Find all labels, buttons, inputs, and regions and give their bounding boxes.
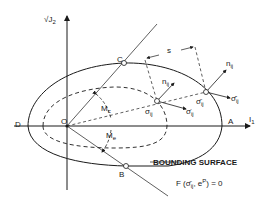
sigma-bar-dot-vector <box>206 92 230 98</box>
compression-line <box>67 24 157 126</box>
point-d-label: D <box>15 120 21 129</box>
sigma-bar-label: σ̄ij <box>196 97 204 107</box>
point-c-label: C <box>117 55 123 64</box>
s-extension-right <box>195 47 206 92</box>
n-outer-vector <box>206 70 226 92</box>
s-extension-left <box>145 60 157 101</box>
s-dimension-right <box>181 47 193 50</box>
horizontal-axis-label: I1 <box>249 115 255 125</box>
bounding-surface-caption: BOUNDING SURFACE <box>153 158 238 167</box>
sigma-inner-marker <box>155 99 160 104</box>
sigma-inner-label: σij <box>145 107 153 117</box>
s-dimension-left <box>147 55 159 58</box>
sigma-dot-vector <box>157 101 186 109</box>
point-a-label: A <box>228 117 234 126</box>
sigma-bar-marker <box>204 90 209 95</box>
n-outer-label: nij <box>226 59 233 69</box>
distance-s-label: s <box>167 46 171 55</box>
sigma-dot-label: σ̇ij <box>186 107 194 117</box>
point-b-label: B <box>119 170 124 179</box>
sigma-bar-dot-label: σ̄̇ij <box>231 94 239 104</box>
angle-me-label: Me <box>106 131 117 141</box>
bounding-surface-equation: F (σ̄ij, eP) = 0 <box>176 178 223 189</box>
bounding-surface-diagram: √J2 I1 D O A C B Mc Me s nij σij σ̇ij ni… <box>0 0 268 207</box>
point-b-marker <box>124 164 129 169</box>
vertical-axis-label: √J2 <box>44 15 56 25</box>
n-inner-label: nij <box>162 77 169 87</box>
origin-label: O <box>61 117 67 126</box>
angle-mc-label: Mc <box>101 104 111 114</box>
